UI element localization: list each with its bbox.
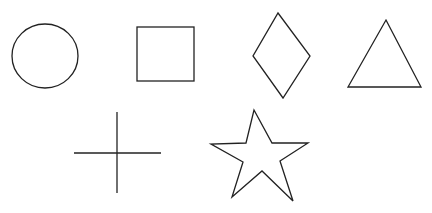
circle-shape: Circle (12, 24, 78, 88)
cross-shape: Cross (74, 112, 161, 193)
star-shape: Star (211, 110, 308, 201)
triangle-shape: Triangle (348, 20, 421, 87)
shapes-canvas: Circle Square Diamond Triangle Cross Sta… (0, 0, 432, 213)
square-shape: Square (137, 27, 194, 81)
diamond-shape: Diamond (253, 13, 310, 98)
